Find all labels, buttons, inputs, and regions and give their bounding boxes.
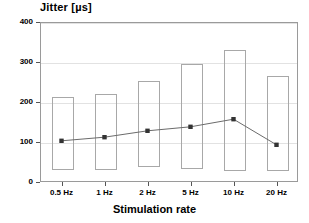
- x-tick-label: 5 Hz: [182, 188, 198, 197]
- y-tick-label-0: 0: [0, 177, 40, 186]
- plot-area: [40, 22, 298, 182]
- x-tick-mark-3: [191, 182, 192, 186]
- bar: [138, 81, 160, 167]
- y-tick-label-200: 200: [0, 97, 40, 106]
- gridline-100: [41, 143, 297, 144]
- bar: [52, 97, 74, 170]
- x-tick-label: 1 Hz: [96, 188, 112, 197]
- y-tick-label-400: 400: [0, 17, 40, 26]
- y-tick-label-300: 300: [0, 57, 40, 66]
- x-tick-mark-1: [105, 182, 106, 186]
- x-tick-label: 10 Hz: [223, 188, 244, 197]
- gridline-200: [41, 103, 297, 104]
- x-tick-label: 0.5 Hz: [50, 188, 73, 197]
- x-tick-mark-4: [234, 182, 235, 186]
- gridline-300: [41, 63, 297, 64]
- bar: [95, 94, 117, 170]
- x-tick-label: 20 Hz: [266, 188, 287, 197]
- x-tick-mark-2: [148, 182, 149, 186]
- y-tick-label-100: 100: [0, 137, 40, 146]
- x-axis-title: Stimulation rate: [0, 203, 309, 215]
- x-tick-label: 2 Hz: [139, 188, 155, 197]
- bar: [267, 76, 289, 171]
- x-tick-mark-5: [277, 182, 278, 186]
- y-axis-title: Jitter [µs]: [40, 1, 92, 13]
- jitter-vs-stimulation-rate-chart: Jitter [µs] Stimulation rate 01002003004…: [0, 0, 309, 223]
- gridline-400: [41, 23, 297, 24]
- bar: [224, 50, 246, 171]
- x-tick-mark-0: [62, 182, 63, 186]
- bar: [181, 64, 203, 169]
